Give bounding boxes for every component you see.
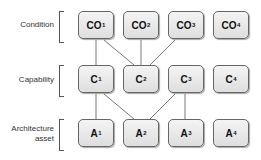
row-label-condition: Condition — [10, 20, 54, 30]
node-label: CO — [222, 20, 237, 31]
node-c2: C2 — [123, 65, 159, 93]
node-subscript: 3 — [192, 22, 195, 28]
node-subscript: 2 — [143, 76, 146, 82]
edge-c1-a2 — [104, 94, 134, 119]
node-label: A — [225, 128, 232, 139]
node-co4: CO4 — [213, 11, 249, 39]
node-label: CO — [177, 20, 192, 31]
node-label: A — [180, 128, 187, 139]
node-co2: CO2 — [123, 11, 159, 39]
node-subscript: 2 — [143, 130, 146, 136]
node-label: A — [90, 128, 97, 139]
node-a1: A1 — [78, 119, 114, 147]
node-a2: A2 — [123, 119, 159, 147]
edge-c3-a2 — [150, 94, 175, 119]
node-a3: A3 — [168, 119, 204, 147]
node-c3: C3 — [168, 65, 204, 93]
row-label-capability: Capability — [8, 75, 54, 85]
bracket-architecture-asset — [59, 119, 64, 151]
row-label-line-2: asset — [4, 134, 54, 144]
node-label: C — [90, 74, 97, 85]
node-subscript: 1 — [102, 22, 105, 28]
bracket-capability — [59, 65, 64, 97]
edge-co1-c2 — [104, 40, 134, 65]
node-subscript: 2 — [147, 22, 150, 28]
node-c4: C4 — [213, 65, 249, 93]
node-subscript: 4 — [237, 22, 240, 28]
row-label-line-1: Architecture — [4, 124, 54, 134]
node-a4: A4 — [213, 119, 249, 147]
node-subscript: 3 — [188, 130, 191, 136]
node-subscript: 1 — [98, 76, 101, 82]
bracket-condition — [59, 11, 64, 43]
row-label-architecture-asset: Architecture asset — [4, 124, 54, 144]
node-subscript: 1 — [98, 130, 101, 136]
node-label: A — [135, 128, 142, 139]
node-subscript: 3 — [188, 76, 191, 82]
node-c1: C1 — [78, 65, 114, 93]
node-subscript: 4 — [233, 76, 236, 82]
layered-dependency-diagram: Condition Capability Architecture asset … — [0, 0, 261, 160]
node-co3: CO3 — [168, 11, 204, 39]
node-label: CO — [87, 20, 102, 31]
edge-co3-c2 — [150, 40, 175, 65]
node-label: C — [135, 74, 142, 85]
node-label: CO — [132, 20, 147, 31]
node-label: C — [225, 74, 232, 85]
node-subscript: 4 — [233, 130, 236, 136]
node-label: C — [180, 74, 187, 85]
node-co1: CO1 — [78, 11, 114, 39]
